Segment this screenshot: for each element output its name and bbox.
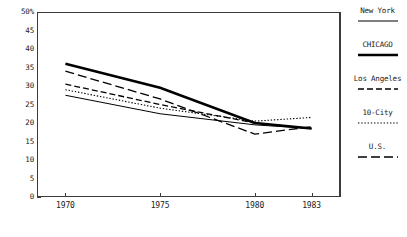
- legend-entry-label: New York: [348, 6, 407, 15]
- legend-swatch: [358, 155, 398, 159]
- y-axis-tick-label: 35: [2, 64, 34, 72]
- y-axis-tick-label: 30: [2, 82, 34, 90]
- y-axis-tick-label: 45: [2, 27, 34, 35]
- x-axis-tick-mark: [312, 193, 313, 197]
- plot-area: [37, 12, 340, 197]
- chart-legend: New YorkCHICAGOLos Angeles10-CityU.S.: [348, 0, 407, 237]
- legend-entry-label: U.S.: [348, 142, 407, 151]
- legend-swatch: [358, 53, 398, 57]
- series-line: [65, 64, 311, 129]
- x-axis-tick-mark: [65, 193, 66, 197]
- legend-entry[interactable]: 10-City: [348, 108, 407, 125]
- y-axis-tick-label: 10: [2, 156, 34, 164]
- y-axis-tick-label: 40: [2, 45, 34, 53]
- legend-entry[interactable]: New York: [348, 6, 407, 23]
- series-line: [65, 90, 311, 121]
- y-axis-tick-label: 25: [2, 101, 34, 109]
- y-axis-tick-label: 0: [2, 193, 34, 201]
- legend-entry-label: CHICAGO: [348, 40, 407, 49]
- x-axis-tick-mark: [255, 193, 256, 197]
- x-axis-tick-label: 1975: [140, 201, 180, 211]
- y-axis-tick-label: 5: [2, 175, 34, 183]
- x-axis-tick-label: 1970: [45, 201, 85, 211]
- legend-entry[interactable]: U.S.: [348, 142, 407, 159]
- y-axis-tick-label: 50%: [2, 8, 34, 16]
- y-axis-tick-mark: [37, 197, 41, 198]
- legend-swatch: [358, 19, 398, 23]
- y-axis-tick-label: 20: [2, 119, 34, 127]
- legend-divider: [340, 12, 341, 197]
- x-axis-tick-label: 1983: [292, 201, 332, 211]
- x-axis-label-group: 1970197519801983: [0, 201, 407, 215]
- x-axis-tick-mark: [160, 193, 161, 197]
- y-axis-tick-label: 15: [2, 138, 34, 146]
- x-axis-tick-label: 1980: [235, 201, 275, 211]
- legend-swatch: [358, 87, 398, 91]
- legend-entry-label: Los Angeles: [348, 74, 407, 83]
- series-line: [65, 84, 311, 128]
- legend-swatch: [358, 121, 398, 125]
- chart-page: 50%454035302520151050 1970197519801983 N…: [0, 0, 407, 237]
- legend-entry-label: 10-City: [348, 108, 407, 117]
- legend-entry[interactable]: CHICAGO: [348, 40, 407, 57]
- legend-entry[interactable]: Los Angeles: [348, 74, 407, 91]
